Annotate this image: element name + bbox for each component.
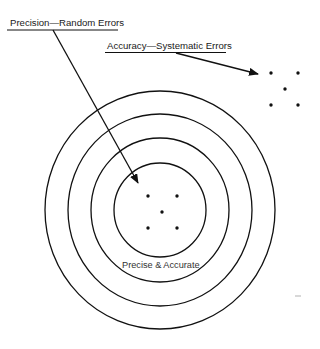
target-rings [45, 91, 275, 329]
offset-dot-cluster [269, 71, 299, 106]
data-dot [175, 226, 178, 229]
data-dot [146, 194, 149, 197]
ring-inner [114, 163, 206, 257]
precision-label: Precision—Random Errors [10, 17, 124, 28]
data-dot [146, 226, 149, 229]
center-label: Precise & Accurate [122, 260, 200, 270]
data-dot [160, 210, 163, 213]
accuracy-arrow [176, 53, 258, 74]
precision-accuracy-diagram: Precision—Random Errors Accuracy—Systema… [0, 0, 320, 349]
data-dot [296, 103, 299, 106]
data-dot [269, 103, 272, 106]
data-dot [269, 71, 272, 74]
data-dot [175, 194, 178, 197]
data-dot [296, 71, 299, 74]
accuracy-label: Accuracy—Systematic Errors [107, 40, 232, 51]
scan-artifact [295, 295, 301, 297]
ring-outer [45, 91, 275, 329]
data-dot [283, 87, 286, 90]
ring-second [68, 114, 252, 306]
center-dot-cluster [146, 194, 178, 229]
